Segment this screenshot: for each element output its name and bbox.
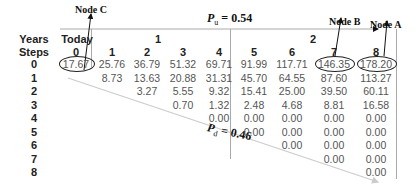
lattice-cell: 9.32 <box>199 85 239 97</box>
node-b-label: Node B <box>329 16 360 27</box>
lattice-cell: 113.27 <box>356 72 396 84</box>
step-header-1: 1 <box>100 46 124 58</box>
lattice-cell: 0.00 <box>272 112 312 124</box>
row-label: 3 <box>24 99 44 111</box>
lattice-cell: 39.50 <box>314 85 354 97</box>
lattice-cell: 0.00 <box>234 112 274 124</box>
node-a-ellipse <box>357 56 397 72</box>
year-today: Today <box>58 33 96 45</box>
steps-label: Steps <box>14 46 54 58</box>
lattice-cell: 0.00 <box>356 166 396 178</box>
node-b-ellipse <box>315 56 355 72</box>
lattice-cell: 0.00 <box>356 139 396 151</box>
step-header-4: 4 <box>207 46 231 58</box>
row-label: 2 <box>24 85 44 97</box>
node-a-label: Node A <box>370 19 401 30</box>
lattice-cell: 51.32 <box>163 58 203 70</box>
step-header-6: 6 <box>280 46 304 58</box>
lattice-cell: 0.00 <box>314 112 354 124</box>
lattice-cell: 4.68 <box>272 99 312 111</box>
prob-up: Pu = 0.54 <box>207 11 252 27</box>
lattice-cell: 0.70 <box>163 99 203 111</box>
step-header-5: 5 <box>242 46 266 58</box>
lattice-cell: 69.71 <box>199 58 239 70</box>
lattice-cell: 0.00 <box>314 126 354 138</box>
row-label: 6 <box>24 139 44 151</box>
row-label: 7 <box>24 153 44 165</box>
step-header-2: 2 <box>135 46 159 58</box>
node-c-ellipse <box>59 56 95 72</box>
lattice-cell: 0.00 <box>356 126 396 138</box>
lattice-cell: 1.32 <box>199 99 239 111</box>
lattice-cell: 2.48 <box>234 99 274 111</box>
lattice-cell: 0.00 <box>199 112 239 124</box>
row-label: 8 <box>24 166 44 178</box>
lattice-cell: 64.55 <box>272 72 312 84</box>
lattice-cell: 45.70 <box>234 72 274 84</box>
lattice-cell: 87.60 <box>314 72 354 84</box>
lattice-cell: 25.00 <box>272 85 312 97</box>
row-label: 0 <box>24 58 44 70</box>
lattice-cell: 0.00 <box>356 153 396 165</box>
lattice-cell: 0.00 <box>272 139 312 151</box>
row-label: 4 <box>24 112 44 124</box>
lattice-cell: 91.99 <box>234 58 274 70</box>
divider-right <box>396 29 397 179</box>
lattice-cell: 0.00 <box>234 126 274 138</box>
row-label: 1 <box>24 72 44 84</box>
lattice-cell: 31.31 <box>199 72 239 84</box>
node-c-label: Node C <box>75 4 107 15</box>
lattice-cell: 15.41 <box>234 85 274 97</box>
lattice-cell: 0.00 <box>314 139 354 151</box>
lattice-cell: 16.58 <box>356 99 396 111</box>
lattice-cell: 3.27 <box>127 85 167 97</box>
lattice-cell: 60.11 <box>356 85 396 97</box>
lattice-cell: 8.73 <box>92 72 132 84</box>
year-2: 2 <box>305 33 321 45</box>
lattice-cell: 0.00 <box>272 126 312 138</box>
row-label: 5 <box>24 126 44 138</box>
lattice-cell: 36.79 <box>127 58 167 70</box>
lattice-cell: 5.55 <box>163 85 203 97</box>
years-label: Years <box>14 33 54 45</box>
year-1: 1 <box>150 33 166 45</box>
lattice-cell: 117.71 <box>272 58 312 70</box>
lattice-cell: 25.76 <box>92 58 132 70</box>
lattice-cell: 0.00 <box>356 112 396 124</box>
lattice-cell: 8.81 <box>314 99 354 111</box>
lattice-cell: 0.00 <box>314 153 354 165</box>
lattice-cell: 20.88 <box>163 72 203 84</box>
lattice-cell: 13.63 <box>127 72 167 84</box>
step-header-3: 3 <box>171 46 195 58</box>
